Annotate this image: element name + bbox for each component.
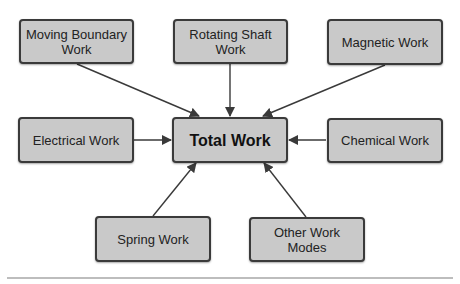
node-rotating-shaft-work: Rotating Shaft Work <box>173 19 288 64</box>
node-label: Other Work Modes <box>267 225 347 255</box>
node-label: Moving Boundary Work <box>21 27 132 57</box>
work-modes-diagram: Moving Boundary Work Rotating Shaft Work… <box>0 0 460 284</box>
node-label: Total Work <box>189 133 270 148</box>
node-spring-work: Spring Work <box>95 216 211 262</box>
node-other-work-modes: Other Work Modes <box>249 217 365 262</box>
arrow-magnetic <box>263 65 385 116</box>
arrow-moving-boundary <box>77 64 199 116</box>
node-total-work: Total Work <box>172 117 288 163</box>
node-chemical-work: Chemical Work <box>327 118 443 163</box>
node-label: Spring Work <box>117 232 188 247</box>
node-electrical-work: Electrical Work <box>18 117 134 163</box>
node-label: Electrical Work <box>33 133 119 148</box>
node-label: Magnetic Work <box>342 35 428 50</box>
node-label: Chemical Work <box>341 133 429 148</box>
node-moving-boundary-work: Moving Boundary Work <box>19 19 134 64</box>
bottom-divider <box>7 277 453 279</box>
arrow-spring <box>153 163 196 216</box>
node-magnetic-work: Magnetic Work <box>327 19 443 65</box>
node-label: Rotating Shaft Work <box>175 27 286 57</box>
arrow-other <box>264 163 306 217</box>
